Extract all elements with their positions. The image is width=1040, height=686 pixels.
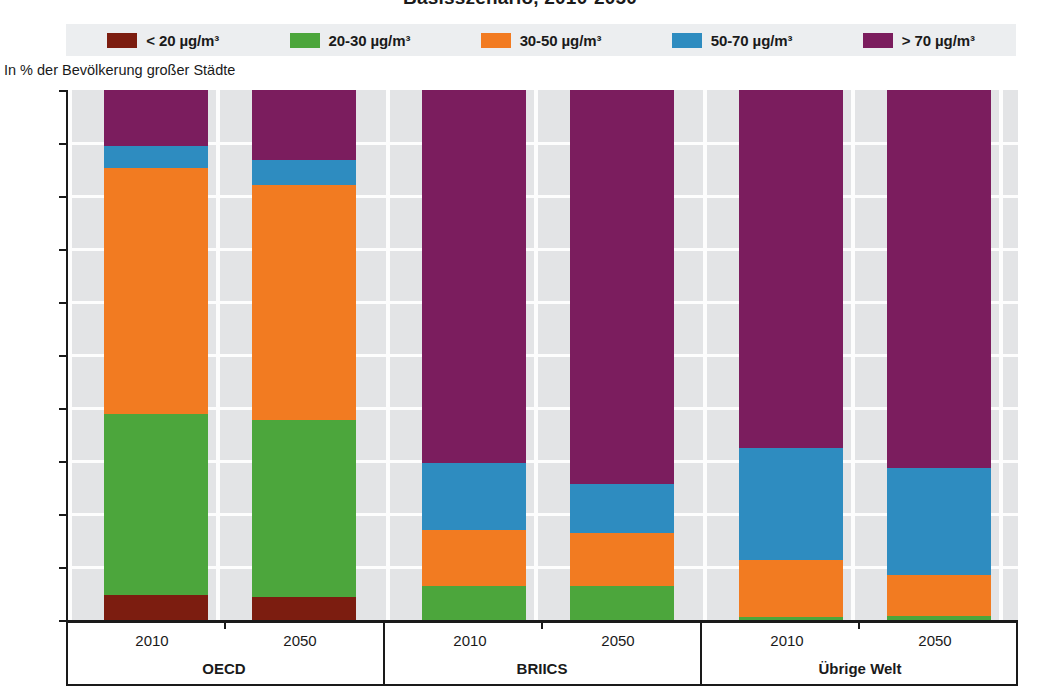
legend-item-label: 20-30 µg/m³: [329, 32, 411, 49]
chart-legend: < 20 µg/m³ 20-30 µg/m³ 30-50 µg/m³ 50-70…: [66, 24, 1016, 56]
bar-segment[interactable]: [570, 484, 674, 533]
vertical-gridline: [68, 90, 72, 620]
x-tick-label: 2050: [240, 632, 360, 649]
x-group-label: BRIICS: [382, 660, 702, 677]
plot-area: 0102030405060708090100: [66, 90, 1018, 620]
x-tick-mark: [224, 620, 226, 629]
y-tick-mark: [59, 302, 68, 304]
x-tick-mark: [383, 620, 385, 629]
bar-oecd-2010[interactable]: [104, 90, 208, 620]
bar-segment[interactable]: [422, 586, 526, 620]
bar-segment[interactable]: [104, 168, 208, 414]
legend-item-label: < 20 µg/m³: [146, 32, 219, 49]
bar-segment[interactable]: [252, 420, 356, 597]
gridline: [68, 354, 1018, 357]
x-tick-label: 2050: [875, 632, 995, 649]
y-tick-mark: [59, 355, 68, 357]
gridline: [68, 195, 1018, 198]
x-tick-mark: [66, 620, 68, 629]
x-tick-mark: [700, 620, 702, 629]
legend-swatch-icon: [863, 33, 893, 48]
bar-segment[interactable]: [570, 533, 674, 586]
legend-item[interactable]: 20-30 µg/m³: [290, 32, 411, 49]
legend-item-label: 50-70 µg/m³: [711, 32, 793, 49]
legend-item-label: 30-50 µg/m³: [520, 32, 602, 49]
bar-übrige-welt-2010[interactable]: [739, 90, 843, 620]
vertical-gridline: [216, 90, 220, 620]
bar-segment[interactable]: [422, 90, 526, 463]
bar-segment[interactable]: [104, 146, 208, 168]
bar-segment[interactable]: [739, 448, 843, 560]
gridline: [68, 513, 1018, 516]
gridline: [68, 248, 1018, 251]
y-tick-mark: [59, 196, 68, 198]
legend-item-label: > 70 µg/m³: [902, 32, 975, 49]
y-tick-mark: [59, 143, 68, 145]
x-tick-label: 2010: [92, 632, 212, 649]
bar-segment[interactable]: [252, 90, 356, 160]
gridline: [68, 301, 1018, 304]
x-tick-label: 2010: [727, 632, 847, 649]
vertical-gridline: [534, 90, 538, 620]
x-group-label: Übrige Welt: [700, 660, 1020, 677]
bar-segment[interactable]: [887, 90, 991, 468]
bar-briics-2050[interactable]: [570, 90, 674, 620]
y-tick-mark: [59, 567, 68, 569]
bar-briics-2010[interactable]: [422, 90, 526, 620]
y-tick-mark: [59, 461, 68, 463]
y-tick-mark: [59, 408, 68, 410]
vertical-gridline: [703, 90, 707, 620]
y-tick-mark: [59, 90, 68, 92]
gridline: [68, 407, 1018, 410]
legend-swatch-icon: [672, 33, 702, 48]
bar-segment[interactable]: [252, 597, 356, 620]
x-tick-mark: [541, 620, 543, 629]
x-tick-mark: [1016, 620, 1018, 629]
bar-segment[interactable]: [739, 90, 843, 448]
y-tick-mark: [59, 249, 68, 251]
bar-segment[interactable]: [887, 575, 991, 616]
legend-item[interactable]: > 70 µg/m³: [863, 32, 975, 49]
legend-item[interactable]: 50-70 µg/m³: [672, 32, 793, 49]
bar-segment[interactable]: [104, 595, 208, 620]
gridline: [68, 142, 1018, 145]
page-title: Basisszenario, 2010-2050: [0, 0, 1040, 9]
gridline: [68, 566, 1018, 569]
x-tick-label: 2010: [410, 632, 530, 649]
legend-swatch-icon: [290, 33, 320, 48]
bar-segment[interactable]: [104, 414, 208, 595]
bar-segment[interactable]: [570, 586, 674, 620]
bar-segment[interactable]: [422, 463, 526, 530]
y-axis-title: In % der Bevölkerung großer Städte: [4, 62, 235, 78]
x-tick-mark: [858, 620, 860, 629]
bar-segment[interactable]: [739, 560, 843, 617]
bar-segment[interactable]: [570, 90, 674, 484]
vertical-gridline: [999, 90, 1003, 620]
legend-swatch-icon: [107, 33, 137, 48]
x-group-label: OECD: [64, 660, 384, 677]
vertical-gridline: [851, 90, 855, 620]
vertical-gridline: [386, 90, 390, 620]
legend-swatch-icon: [481, 33, 511, 48]
x-tick-label: 2050: [558, 632, 678, 649]
bar-segment[interactable]: [252, 160, 356, 185]
bar-segment[interactable]: [887, 468, 991, 575]
y-tick-mark: [59, 514, 68, 516]
bar-oecd-2050[interactable]: [252, 90, 356, 620]
gridline: [68, 460, 1018, 463]
bar-segment[interactable]: [252, 185, 356, 420]
bar-segment[interactable]: [422, 530, 526, 586]
bar-segment[interactable]: [104, 90, 208, 146]
legend-item[interactable]: < 20 µg/m³: [107, 32, 219, 49]
legend-item[interactable]: 30-50 µg/m³: [481, 32, 602, 49]
bar-übrige-welt-2050[interactable]: [887, 90, 991, 620]
